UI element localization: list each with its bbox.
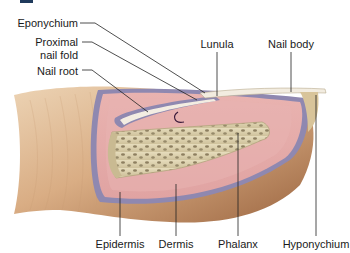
label-eponychium: Eponychium (0, 17, 78, 29)
label-nail-body: Nail body (268, 38, 314, 50)
label-proximal-nail-fold-line2: nail fold (0, 49, 78, 61)
label-nail-root: Nail root (0, 65, 78, 77)
leader-eponychium (80, 23, 205, 93)
label-hyponychium: Hyponychium (283, 238, 350, 250)
label-proximal-nail-fold-line1: Proximal (0, 36, 78, 48)
label-dermis: Dermis (159, 238, 194, 250)
label-phalanx: Phalanx (218, 238, 258, 250)
nail-anatomy-diagram: Eponychium Proximal nail fold Nail root … (0, 0, 350, 253)
label-lunula: Lunula (200, 38, 233, 50)
label-epidermis: Epidermis (96, 238, 145, 250)
